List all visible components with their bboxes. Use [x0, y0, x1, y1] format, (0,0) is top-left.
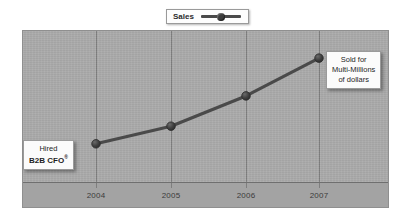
data-point-2004 [92, 140, 101, 149]
data-point-2007 [315, 54, 324, 63]
annotation-right-line2: Multi-Millions [332, 65, 375, 75]
data-point-2005 [167, 122, 176, 131]
registered-trademark-icon: ® [64, 154, 68, 160]
annotation-right-line1: Sold for [332, 55, 375, 65]
series-markers [92, 54, 324, 148]
chart-screenshot: 2004 2005 2006 2007 Sales Hire [0, 0, 410, 219]
annotation-hired-b2b-cfo: Hired B2B CFO® [23, 140, 74, 170]
annotation-right-line3: of dollars [332, 75, 375, 85]
legend-item-label: Sales [173, 13, 194, 21]
series-line [96, 58, 319, 144]
annotation-left-line2: B2B CFO® [29, 154, 68, 166]
line-marker-icon [201, 12, 241, 21]
legend-marker-dot [217, 13, 225, 21]
annotation-sold-for-multi-millions: Sold for Multi-Millions of dollars [326, 51, 381, 89]
chart-legend: Sales [166, 9, 249, 24]
data-point-2006 [242, 92, 251, 101]
annotation-left-line1: Hired [29, 144, 68, 154]
